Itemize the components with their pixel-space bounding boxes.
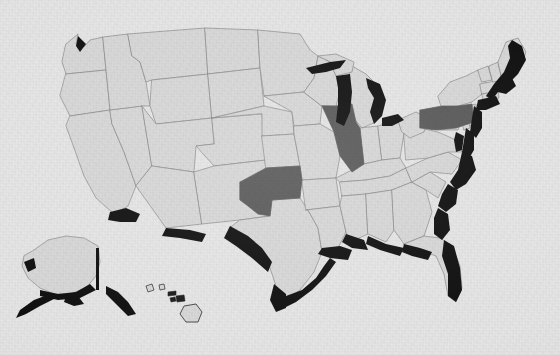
state-arkansas[interactable] — [302, 178, 340, 210]
state-arizona[interactable] — [136, 166, 202, 228]
state-kansas[interactable] — [262, 134, 300, 168]
alaska-panhandle — [96, 248, 99, 290]
coast-georgia-atlantic — [434, 208, 450, 240]
state-alabama[interactable] — [366, 190, 394, 242]
island-oahu[interactable] — [159, 284, 165, 290]
coast-gulf-louisiana — [318, 246, 352, 260]
island-maui[interactable] — [176, 295, 185, 302]
coast-cape-cod — [498, 78, 516, 94]
hawaii-inset-group — [146, 284, 202, 322]
alaska-southeast-islands — [106, 286, 136, 316]
state-oregon[interactable] — [60, 70, 110, 116]
island-lanai[interactable] — [170, 297, 176, 302]
alaska-inset-group — [16, 236, 136, 318]
alaska-aleutian-chain — [16, 294, 56, 318]
us-map-svg — [0, 0, 560, 355]
state-north-dakota[interactable] — [205, 28, 260, 74]
island-molokai[interactable] — [168, 291, 176, 296]
state-washington[interactable] — [62, 34, 106, 74]
coast-mexico-border-west — [162, 228, 206, 242]
state-wyoming[interactable] — [150, 74, 212, 124]
coast-long-island — [476, 96, 500, 110]
island-kauai[interactable] — [146, 284, 154, 292]
state-georgia[interactable] — [392, 182, 432, 244]
us-choropleth-map-figure — [0, 0, 560, 355]
island-hawaii-big-island[interactable] — [180, 304, 202, 322]
